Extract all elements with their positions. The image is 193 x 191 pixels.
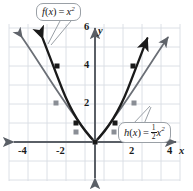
x-tick-label-neg2: -2 bbox=[56, 145, 65, 156]
point-h-neg2 bbox=[54, 101, 59, 106]
callout-f-exponent: 2 bbox=[71, 4, 75, 12]
callout-h-exponent: 2 bbox=[161, 125, 165, 133]
y-tick-label-4: 4 bbox=[84, 59, 89, 70]
point-f-neg2 bbox=[55, 64, 60, 69]
y-tick-label-2: 2 bbox=[84, 97, 89, 108]
point-f-zero bbox=[93, 140, 98, 145]
point-f-pos2 bbox=[131, 64, 136, 69]
x-tick-label-pos4: 4 bbox=[167, 145, 172, 156]
x-axis-label: x bbox=[179, 145, 184, 156]
callout-label-h: h(x)=12x2 bbox=[118, 122, 171, 143]
x-tick-label-pos2: 2 bbox=[129, 145, 134, 156]
callout-f-equals: = bbox=[57, 6, 67, 17]
point-h-pos1 bbox=[112, 130, 117, 135]
point-h-pos2 bbox=[132, 101, 137, 106]
point-f-pos1 bbox=[113, 121, 118, 126]
callout-h-equals: = bbox=[141, 127, 151, 138]
callout-label-f: f(x)=x2 bbox=[36, 3, 81, 21]
y-tick-label-6: 6 bbox=[84, 21, 89, 32]
point-f-neg1 bbox=[74, 121, 79, 126]
point-h-neg1 bbox=[74, 130, 79, 135]
x-tick-label-neg4: -4 bbox=[18, 145, 27, 156]
graph-canvas bbox=[0, 0, 193, 191]
parabola-comparison-figure: f(x)=x2 h(x)=12x2 -4 -2 2 4 2 4 6 x y bbox=[0, 0, 193, 191]
y-axis-label: y bbox=[98, 25, 103, 36]
